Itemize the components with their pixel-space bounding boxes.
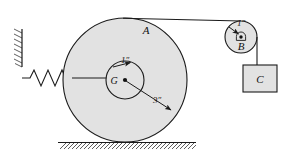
pulley-b-center-point bbox=[239, 35, 242, 38]
label-pulley-radius: 1″ bbox=[237, 18, 246, 28]
label-hub-radius: 1″ bbox=[121, 55, 130, 65]
label-center-g: G bbox=[110, 75, 117, 86]
label-disk-radius: 3″ bbox=[152, 95, 162, 105]
label-block-c: C bbox=[256, 73, 264, 85]
ground-hatching bbox=[60, 143, 196, 149]
wall-hatching bbox=[14, 29, 22, 67]
label-disk-a: A bbox=[142, 24, 150, 36]
ground-surface bbox=[58, 143, 196, 150]
label-pulley-b: B bbox=[238, 40, 245, 52]
wall-support bbox=[14, 29, 22, 67]
mechanics-figure: A G 1″ 3″ 1″ B C bbox=[0, 0, 289, 163]
